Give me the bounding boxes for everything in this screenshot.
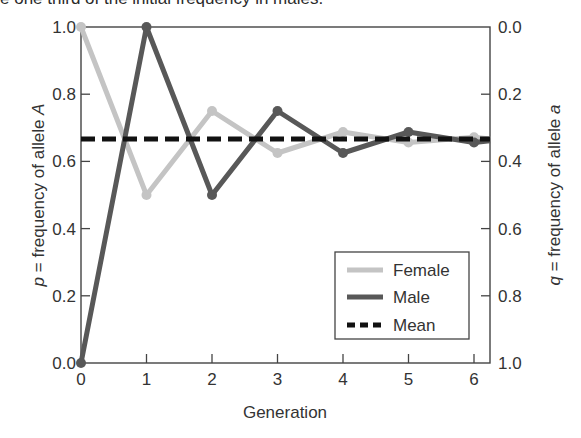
series-female-point <box>338 127 348 137</box>
right-y-tick-label: 0.2 <box>498 85 522 104</box>
left-y-tick-label: 0.2 <box>52 287 76 306</box>
left-y-tick-label: 0.8 <box>52 85 76 104</box>
series-female-point <box>76 22 86 32</box>
x-tick-label: 4 <box>338 370 347 389</box>
x-tick-label: 0 <box>76 370 85 389</box>
right-y-tick-label: 0.0 <box>498 18 522 37</box>
right-y-tick-label: 0.8 <box>498 287 522 306</box>
series-female-point <box>273 148 283 158</box>
series-male-point <box>142 22 152 32</box>
left-y-axis-allele: A <box>29 104 48 116</box>
x-axis-title: Generation <box>243 403 327 422</box>
x-tick-label: 5 <box>404 370 413 389</box>
right-y-tick-label: 0.6 <box>498 220 522 239</box>
series-male-point <box>338 148 348 158</box>
left-y-tick-label: 1.0 <box>52 18 76 37</box>
axis-titles: Generation p = frequency of allele A q =… <box>29 104 564 422</box>
left-y-tick-label: 0.4 <box>52 220 76 239</box>
left-y-axis-var: p <box>29 277 48 287</box>
left-y-tick-label: 0.0 <box>52 354 76 373</box>
x-tick-label: 1 <box>142 370 151 389</box>
x-tick-label: 2 <box>207 370 216 389</box>
allele-frequency-chart: 01234560.00.20.40.60.81.01.00.80.60.40.2… <box>0 0 581 438</box>
series-male-point <box>207 190 217 200</box>
series-male-point <box>404 127 414 137</box>
right-y-tick-label: 0.4 <box>498 152 522 171</box>
legend-label-female: Female <box>393 261 450 280</box>
legend-label-mean: Mean <box>393 316 436 335</box>
series-female-point <box>207 106 217 116</box>
left-y-axis-text: = frequency of allele <box>29 115 48 277</box>
series-male-point <box>76 358 86 368</box>
series-male-point <box>273 106 283 116</box>
legend-label-male: Male <box>393 288 430 307</box>
legend: Female Male Mean <box>335 252 469 339</box>
left-y-tick-label: 0.6 <box>52 152 76 171</box>
right-y-axis-title: q = frequency of allele a <box>545 104 564 285</box>
x-tick-label: 6 <box>469 370 478 389</box>
right-y-tick-label: 1.0 <box>498 354 522 373</box>
x-tick-label: 3 <box>273 370 282 389</box>
right-y-axis-allele: a <box>545 104 564 113</box>
left-y-axis-title: p = frequency of allele A <box>29 104 48 288</box>
series-female-point <box>142 190 152 200</box>
right-y-axis-text: = frequency of allele <box>545 114 564 276</box>
